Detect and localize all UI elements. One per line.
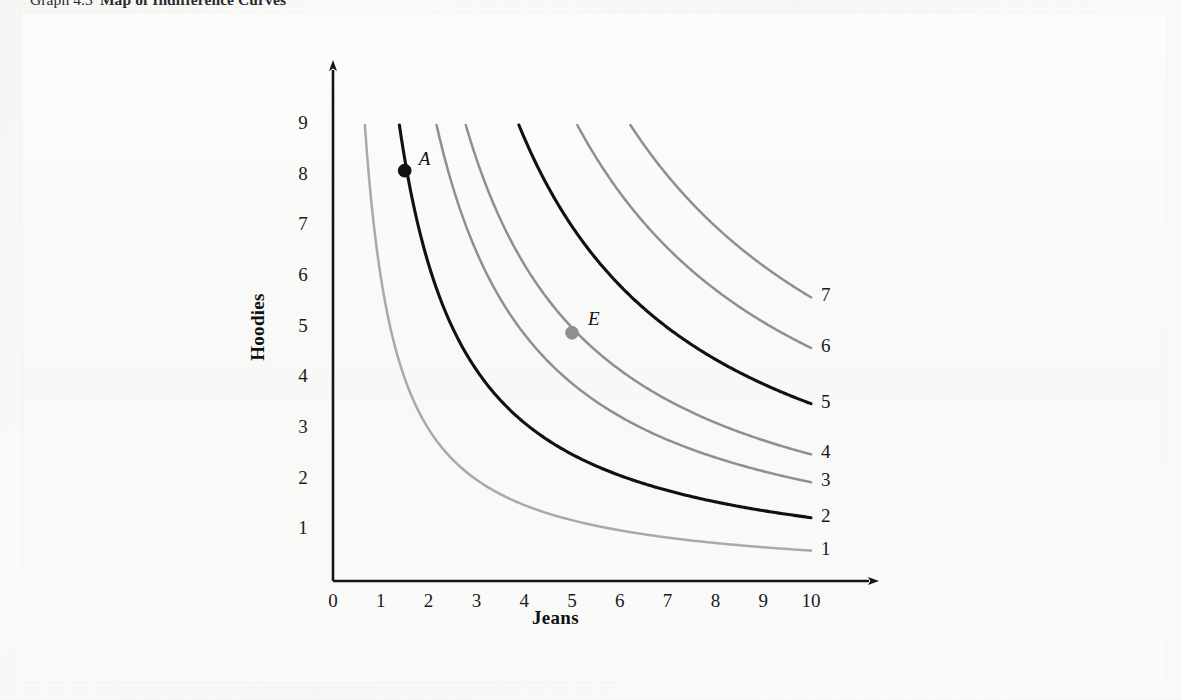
curve-label-5: 5	[821, 391, 851, 413]
x-tick-label: 10	[796, 590, 826, 612]
x-tick-label: 9	[748, 590, 778, 612]
x-tick-label: 3	[461, 590, 491, 612]
x-tick-label: 8	[700, 590, 730, 612]
y-tick-label: 1	[288, 517, 318, 539]
point-marker-E	[566, 326, 579, 339]
indifference-curve-5	[519, 125, 811, 404]
indifference-curve-plot	[0, 0, 1182, 700]
indifference-curve-3	[437, 125, 811, 482]
indifference-curve-7	[630, 125, 811, 297]
indifference-curve-6	[577, 125, 811, 348]
point-marker-A	[398, 164, 411, 177]
curve-label-1: 1	[821, 538, 851, 560]
x-axis-title: Jeans	[532, 607, 579, 629]
curve-label-3: 3	[821, 469, 851, 491]
indifference-curve-2	[399, 125, 811, 518]
curve-label-4: 4	[821, 441, 851, 463]
curve-label-2: 2	[821, 505, 851, 527]
y-axis-title: Hoodies	[247, 267, 269, 387]
curve-label-6: 6	[821, 335, 851, 357]
y-tick-label: 6	[288, 264, 318, 286]
x-tick-label: 0	[318, 590, 348, 612]
indifference-curve-4	[466, 125, 811, 454]
curves-group	[365, 125, 811, 551]
y-tick-label: 3	[288, 416, 318, 438]
x-tick-label: 7	[653, 590, 683, 612]
figure-page: Graph 4.3Map of Indifference Curves 0123…	[0, 0, 1182, 700]
x-tick-label: 6	[605, 590, 635, 612]
curve-label-7: 7	[821, 284, 851, 306]
point-label-E: E	[588, 308, 600, 330]
y-tick-label: 2	[288, 467, 318, 489]
axes-group	[333, 70, 869, 581]
y-tick-label: 7	[288, 213, 318, 235]
y-tick-label: 8	[288, 163, 318, 185]
x-tick-label: 2	[414, 590, 444, 612]
indifference-curve-1	[365, 125, 811, 551]
y-tick-label: 4	[288, 365, 318, 387]
x-tick-label: 1	[366, 590, 396, 612]
y-tick-label: 9	[288, 112, 318, 134]
y-tick-label: 5	[288, 315, 318, 337]
point-label-A: A	[419, 148, 431, 170]
